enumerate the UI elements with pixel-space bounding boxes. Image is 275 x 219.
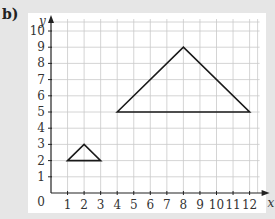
y-tick-label: 6 <box>37 89 45 103</box>
x-axis-label: x <box>268 196 275 210</box>
y-axis-arrow-icon <box>48 15 54 23</box>
x-tick-label: 1 <box>64 198 72 212</box>
x-tick-label: 6 <box>146 198 154 212</box>
y-tick-label: 2 <box>37 154 45 168</box>
y-tick-label: 9 <box>37 40 45 54</box>
x-tick-label: 9 <box>196 198 204 212</box>
coordinate-grid-chart: 123456789101112123456789100xy <box>0 0 275 219</box>
y-axis-label: y <box>38 14 46 28</box>
x-tick-label: 5 <box>130 198 138 212</box>
origin-label: 0 <box>37 195 45 209</box>
x-tick-label: 3 <box>97 198 105 212</box>
x-tick-label: 8 <box>180 198 188 212</box>
y-tick-label: 3 <box>37 137 45 151</box>
x-tick-label: 10 <box>209 198 224 212</box>
y-tick-label: 5 <box>37 105 45 119</box>
y-tick-label: 7 <box>37 73 45 87</box>
y-tick-label: 1 <box>37 170 45 184</box>
x-tick-label: 7 <box>163 198 171 212</box>
y-tick-label: 4 <box>37 121 45 135</box>
x-tick-label: 2 <box>80 198 88 212</box>
x-tick-label: 12 <box>242 198 257 212</box>
x-tick-label: 11 <box>225 198 240 212</box>
x-tick-label: 4 <box>113 198 121 212</box>
y-tick-label: 8 <box>37 56 45 70</box>
